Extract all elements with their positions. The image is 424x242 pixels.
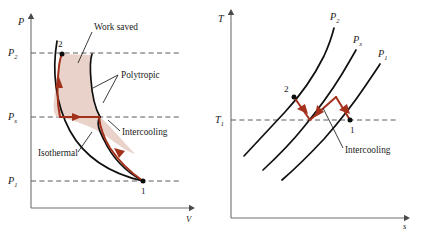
- ts-arrow-stage2: [297, 104, 308, 114]
- pv-x-axis-label: V: [186, 214, 193, 224]
- polytropic-label: Polytropic: [121, 70, 160, 80]
- ts-state-point-1: [348, 118, 353, 123]
- isobar-label-p2: P2: [329, 11, 340, 24]
- pv-state-point-1: [141, 179, 146, 184]
- pv-intercooling-label: Intercooling: [122, 127, 168, 137]
- ts-y-axis-label: T: [218, 13, 225, 24]
- ts-diagram-panel: T s T1 P2 Px P1 2 1 Intercooling: [215, 11, 407, 231]
- ts-state-label-2: 2: [284, 84, 289, 94]
- ts-ytick-t1: T1: [215, 114, 224, 127]
- isothermal-label: Isothermal: [38, 148, 78, 158]
- isobar-label-px: Px: [352, 34, 362, 47]
- thermodynamics-figure: P V P2 Px P1 2 1 Work saved Polytropic I…: [0, 0, 424, 242]
- isobar-label-p1: P1: [377, 48, 387, 61]
- pv-state-label-1: 1: [141, 186, 146, 196]
- pv-state-point-2: [60, 52, 65, 57]
- ts-state-label-1: 1: [350, 125, 355, 135]
- pv-diagram-panel: P V P2 Px P1 2 1 Work saved Polytropic I…: [7, 16, 193, 224]
- pv-ytick-p2: P2: [7, 47, 18, 60]
- pv-ytick-p1: P1: [7, 175, 17, 188]
- ts-intercooling-label: Intercooling: [345, 145, 391, 155]
- figure-canvas: P V P2 Px P1 2 1 Work saved Polytropic I…: [0, 0, 424, 242]
- ts-intercooling-leader: [323, 108, 343, 148]
- work-saved-label: Work saved: [94, 22, 138, 32]
- pv-ytick-px: Px: [7, 111, 17, 124]
- ts-x-axis-label: s: [403, 221, 407, 231]
- ts-state-point-2: [292, 95, 297, 100]
- isobar-p1-curve: [282, 64, 380, 180]
- pv-state-label-2: 2: [58, 39, 63, 49]
- isothermal-leader: [78, 132, 92, 152]
- pv-y-axis-label: P: [17, 16, 24, 27]
- isobar-p2-curve: [244, 28, 334, 156]
